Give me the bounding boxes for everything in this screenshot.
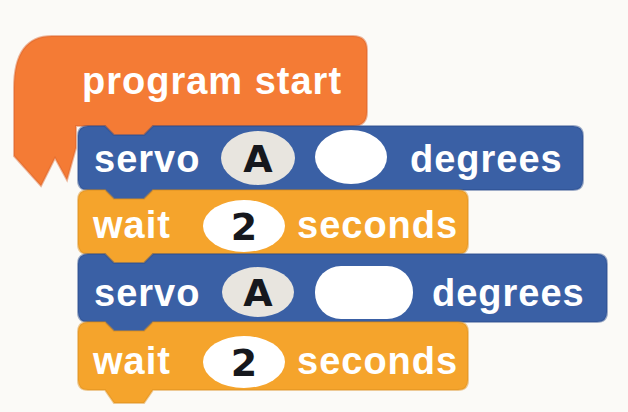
block-workspace: program start servo A degrees wait 2 sec… [0,0,628,412]
servo-2-angle-slot[interactable] [315,266,413,319]
servo-1-keyword: servo [94,138,200,180]
servo-2-keyword: servo [94,272,200,314]
servo-1-port-value[interactable]: A [243,137,273,181]
wait-1-duration-value[interactable]: 2 [231,205,257,249]
wait-block-2[interactable]: wait 2 seconds [78,322,468,403]
servo-2-unit-label: degrees [432,272,585,314]
wait-1-keyword: wait [92,204,171,246]
wait-2-keyword: wait [92,340,171,382]
wait-2-unit-label: seconds [297,340,458,382]
block-canvas: program start servo A degrees wait 2 sec… [0,0,628,412]
servo-1-unit-label: degrees [410,138,563,180]
servo-1-angle-slot[interactable] [315,130,387,184]
servo-2-port-value[interactable]: A [243,271,273,315]
program-start-label: program start [82,60,342,102]
wait-2-duration-value[interactable]: 2 [231,341,257,385]
wait-1-unit-label: seconds [297,204,458,246]
